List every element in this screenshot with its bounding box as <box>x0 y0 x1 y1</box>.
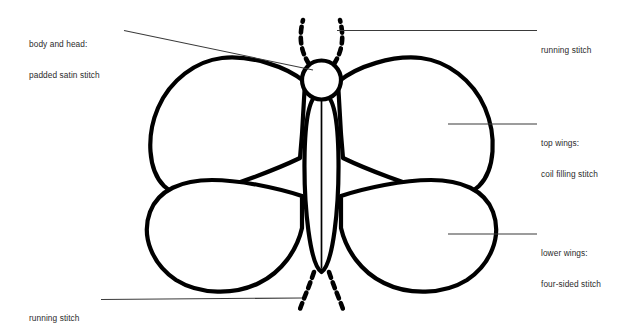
label-top-wings-line1: top wings: <box>541 138 598 148</box>
head <box>302 61 341 100</box>
tail-right <box>329 272 343 309</box>
label-lower-wings-line1: lower wings: <box>541 248 601 258</box>
tails-group <box>300 272 343 309</box>
tail-left <box>300 272 314 309</box>
label-lower-wings: lower wings: four-sided stitch <box>541 228 601 310</box>
label-running-stitch-top: running stitch <box>541 25 592 76</box>
leader-line-running-stitch-bottom <box>101 298 302 300</box>
body-group <box>302 61 341 273</box>
label-running-stitch-top-line1: running stitch <box>541 45 592 55</box>
label-lower-wings-line2: four-sided stitch <box>541 279 601 289</box>
label-running-stitch-bottom: running stitch <box>29 293 80 327</box>
label-top-wings: top wings: coil filling stitch <box>541 118 598 200</box>
label-body-and-head-line1: body and head: <box>29 39 100 49</box>
upper-wing-right <box>338 58 493 196</box>
antenna-right <box>334 20 342 64</box>
upper-wing-left <box>150 58 305 196</box>
label-top-wings-line2: coil filling stitch <box>541 169 598 179</box>
antennae-group <box>301 20 342 64</box>
label-body-and-head-line2: padded satin stitch <box>29 70 100 80</box>
label-running-stitch-bottom-line1: running stitch <box>29 313 80 323</box>
label-body-and-head: body and head: padded satin stitch <box>29 19 100 101</box>
antenna-left <box>301 20 309 64</box>
lower-wing-left <box>147 180 302 292</box>
lower-wing-right <box>341 180 496 292</box>
